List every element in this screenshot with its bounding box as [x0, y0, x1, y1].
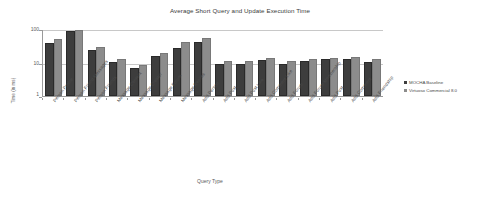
legend-label-0: MOCHA Baseline — [409, 80, 443, 85]
legend-swatch-icon-0 — [404, 81, 407, 84]
chart-title: Average Short Query and Update Execution… — [0, 7, 480, 14]
x-tick-mark — [362, 98, 363, 100]
legend-swatch-icon-1 — [404, 89, 407, 92]
bar — [45, 43, 54, 96]
x-tick-mark — [255, 98, 256, 100]
legend-label-1: Virtuoso Commercial 8.0 — [409, 88, 457, 93]
bar — [173, 48, 182, 96]
x-tick-mark — [298, 98, 299, 100]
x-tick-mark — [191, 98, 192, 100]
bar — [343, 59, 352, 96]
x-tick-mark — [170, 98, 171, 100]
x-tick-mark — [127, 98, 128, 100]
x-tick-mark — [319, 98, 320, 100]
bar-group — [341, 30, 362, 96]
bar — [236, 64, 245, 96]
chart-figure: Average Short Query and Update Execution… — [0, 0, 480, 205]
y-axis-ticks: 100 10 1 — [22, 27, 39, 100]
bar — [300, 61, 309, 96]
x-tick-mark — [42, 98, 43, 100]
x-tick-mark — [106, 98, 107, 100]
x-tick-mark — [213, 98, 214, 100]
y-tick-mark-100 — [39, 30, 42, 31]
y-tick-label-100: 100 — [31, 27, 39, 32]
y-axis-title: Time (in ms) — [11, 66, 16, 116]
x-tick-mark — [85, 98, 86, 100]
legend-item-1: Virtuoso Commercial 8.0 — [404, 88, 478, 93]
x-tick-mark — [63, 98, 64, 100]
x-axis-title: Query Type — [0, 178, 420, 184]
legend-item-0: MOCHA Baseline — [404, 80, 478, 85]
chart-legend: MOCHA Baseline Virtuoso Commercial 8.0 — [404, 80, 478, 96]
x-tick-mark — [234, 98, 235, 100]
y-tick-mark-10 — [39, 64, 42, 65]
bar-group — [43, 30, 64, 96]
x-axis-labels: Person ProfilePerson Friend MessagesPers… — [42, 98, 383, 168]
x-tick-mark — [149, 98, 150, 100]
x-tick-mark — [276, 98, 277, 100]
y-tick-mark-1 — [39, 97, 42, 98]
x-tick-mark — [340, 98, 341, 100]
